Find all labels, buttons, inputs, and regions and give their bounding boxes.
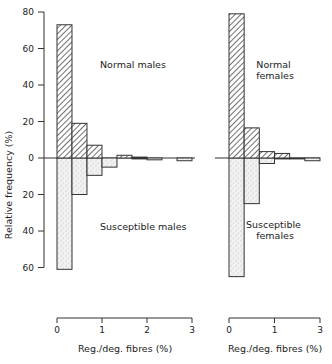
y-tick-label: 0 <box>28 153 34 163</box>
y-tick-label: 60 <box>23 263 35 273</box>
x-tick-label: 2 <box>144 325 150 335</box>
x-axis-males: 0123 <box>54 318 195 335</box>
bar-susceptible <box>244 158 259 204</box>
x-axis-females: 013 <box>226 318 323 335</box>
bar-normal <box>117 155 132 158</box>
bar-susceptible <box>57 158 72 269</box>
label-normal-females: Normal females <box>256 59 294 81</box>
x-tick-label: 0 <box>54 325 60 335</box>
y-tick-label: 80 <box>23 7 35 17</box>
bar-susceptible <box>177 158 192 161</box>
bar-normal <box>229 14 244 158</box>
x-tick-label: 1 <box>272 325 278 335</box>
x-axis-label-females: Reg./deg. fibres (%) <box>228 343 322 354</box>
label-susceptible-males: Susceptible males <box>100 221 187 232</box>
bar-normal <box>87 145 102 158</box>
histogram-chart: 020406080204060 Relative frequency (%) N… <box>0 0 332 364</box>
label-normal-males: Normal males <box>100 59 166 70</box>
bar-normal <box>275 153 290 158</box>
y-tick-label: 20 <box>23 190 35 200</box>
x-tick-label: 3 <box>317 325 323 335</box>
x-axis-label-males: Reg./deg. fibres (%) <box>78 343 172 354</box>
label-susceptible-females: Susceptible females <box>246 219 304 241</box>
x-tick-label: 3 <box>189 325 195 335</box>
bar-normal <box>244 128 259 158</box>
bar-susceptible <box>305 158 320 161</box>
y-tick-label: 60 <box>23 44 35 54</box>
bar-susceptible <box>290 158 305 159</box>
bar-susceptible <box>102 158 117 167</box>
bar-susceptible <box>147 158 162 160</box>
bar-normal <box>72 123 87 158</box>
bar-susceptible <box>229 158 244 277</box>
y-axis: 020406080204060 <box>23 7 44 273</box>
x-tick-label: 1 <box>99 325 105 335</box>
bar-susceptible <box>87 158 102 175</box>
bar-susceptible <box>72 158 87 195</box>
bar-normal <box>57 25 72 158</box>
y-tick-label: 40 <box>23 226 35 236</box>
y-tick-label: 40 <box>23 80 35 90</box>
bar-susceptible <box>259 158 274 163</box>
bar-normal <box>132 157 147 158</box>
bar-normal <box>259 152 274 158</box>
y-tick-label: 20 <box>23 117 35 127</box>
x-tick-label: 0 <box>226 325 232 335</box>
y-axis-label: Relative frequency (%) <box>3 131 14 239</box>
